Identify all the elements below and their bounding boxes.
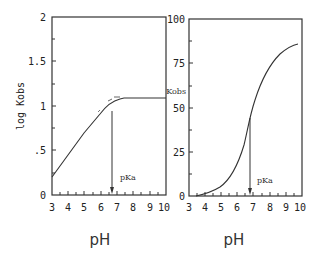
left-ytick-1: 1: [40, 101, 46, 112]
left-y-axis-label: log Kobs: [15, 82, 26, 130]
svg-text:5: 5: [218, 202, 224, 213]
right-pka-label: pKa: [257, 176, 273, 185]
svg-text:3: 3: [49, 202, 55, 213]
svg-text:6: 6: [234, 202, 240, 213]
left-ytick-1.5: 1.5: [28, 56, 46, 67]
svg-text:4: 4: [65, 202, 71, 213]
right-ytick-50: 50: [173, 103, 185, 114]
svg-text:7: 7: [114, 202, 120, 213]
left-chart: 2 1.5 1 .5 0 3 4 5 6 7 8 9 10 log Kobs p…: [15, 12, 170, 249]
right-plot-frame: [189, 19, 302, 196]
svg-text:8: 8: [267, 202, 273, 213]
left-data-line: [52, 98, 166, 177]
right-ytick-25: 25: [173, 147, 185, 158]
svg-text:5: 5: [81, 202, 87, 213]
svg-text:9: 9: [147, 202, 153, 213]
right-ytick-100: 100: [167, 14, 185, 25]
left-ytick-0: 0: [40, 190, 46, 201]
right-x-ticks: [197, 192, 294, 196]
svg-text:10: 10: [158, 202, 170, 213]
left-x-tick-labels: 3 4 5 6 7 8 9 10: [49, 202, 170, 213]
right-y-axis-label: Kobs: [166, 87, 186, 96]
right-data-curve: [196, 44, 298, 196]
right-ytick-75: 75: [173, 58, 185, 69]
right-y-ticks: [189, 41, 193, 174]
svg-text:9: 9: [283, 202, 289, 213]
svg-text:7: 7: [250, 202, 256, 213]
svg-text:10: 10: [294, 202, 306, 213]
svg-text:8: 8: [130, 202, 136, 213]
svg-text:3: 3: [186, 202, 192, 213]
right-x-axis-label: pH: [224, 231, 245, 249]
left-pka-arrowhead-icon: [110, 187, 114, 194]
right-pka-arrowhead-icon: [248, 188, 252, 195]
right-chart: 100 75 50 25 0 Kobs 3 4 5 6 7 8 9 10 pH …: [166, 14, 306, 249]
left-ytick-2: 2: [40, 12, 46, 23]
svg-text:4: 4: [202, 202, 208, 213]
left-x-axis-label: pH: [90, 231, 111, 249]
left-pka-label: pKa: [120, 173, 136, 182]
left-ytick-0.5: .5: [34, 145, 46, 156]
left-x-ticks: [60, 191, 158, 195]
left-plot-frame: [52, 17, 166, 195]
svg-text:6: 6: [98, 202, 104, 213]
right-x-tick-labels: 3 4 5 6 7 8 9 10: [186, 202, 306, 213]
right-ytick-0: 0: [179, 191, 185, 202]
figure: 2 1.5 1 .5 0 3 4 5 6 7 8 9 10 log Kobs p…: [0, 0, 320, 259]
